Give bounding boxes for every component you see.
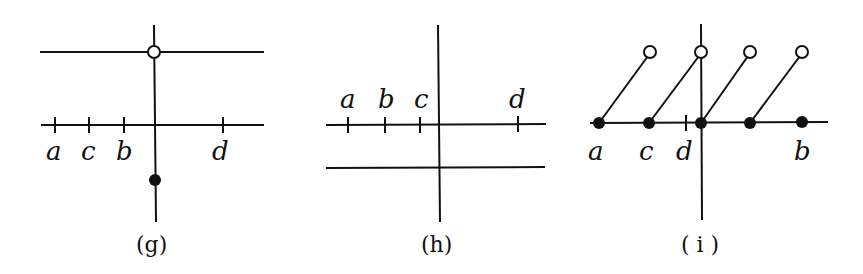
filled-dot-origin <box>695 117 707 129</box>
label-c: c <box>414 84 429 114</box>
diagonal-1 <box>599 56 648 123</box>
caption-h: (h) <box>421 232 452 257</box>
label-c: c <box>639 136 654 166</box>
label-d: d <box>509 84 526 114</box>
filled-dot-4 <box>744 117 756 129</box>
open-circle-3 <box>744 46 756 58</box>
panel-g: a c b d (g) <box>40 25 264 257</box>
caption-g: (g) <box>136 232 167 257</box>
label-d: d <box>676 136 693 166</box>
figure-canvas: a c b d (g) a b c d (h) a <box>0 0 863 274</box>
diagonal-2 <box>649 56 699 123</box>
label-b: b <box>378 84 395 114</box>
diagonal-3 <box>701 56 748 123</box>
label-a: a <box>340 84 356 114</box>
number-line <box>590 122 828 123</box>
caption-i: ( i ) <box>681 232 719 257</box>
open-circle-2 <box>695 46 707 58</box>
open-circle <box>148 46 160 58</box>
label-b: b <box>794 136 811 166</box>
open-circle-1 <box>644 46 656 58</box>
open-circle-4 <box>796 46 808 58</box>
diagonal-4 <box>750 56 800 123</box>
panel-i: a c d b ( i ) <box>588 24 828 257</box>
label-b: b <box>116 136 133 166</box>
filled-dot <box>149 174 161 186</box>
label-a: a <box>46 136 62 166</box>
label-a: a <box>588 136 604 166</box>
filled-dot-b <box>796 116 808 128</box>
panel-h: a b c d (h) <box>326 25 546 257</box>
filled-dot-a <box>593 117 605 129</box>
label-d: d <box>212 136 229 166</box>
number-line <box>326 124 546 125</box>
lower-horizontal-line <box>326 167 545 168</box>
label-c: c <box>81 136 96 166</box>
filled-dot-c <box>643 117 655 129</box>
